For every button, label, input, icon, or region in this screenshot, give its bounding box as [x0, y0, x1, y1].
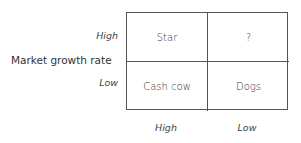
y-axis-title: Market growth rate: [11, 54, 112, 66]
y-tick-low: Low: [99, 77, 118, 88]
cell-question-mark: ?: [208, 13, 289, 62]
matrix-grid: Star ? Cash cow Dogs: [126, 12, 288, 110]
cell-cash-cow: Cash cow: [127, 62, 208, 111]
x-tick-high: High: [155, 122, 177, 133]
x-tick-low: Low: [238, 122, 257, 133]
y-tick-high: High: [96, 30, 118, 41]
cell-star: Star: [127, 13, 208, 62]
cell-dogs: Dogs: [208, 62, 289, 111]
